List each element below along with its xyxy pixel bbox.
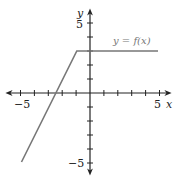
function-graph: y 5 −5 −5 5 x y = f(x) xyxy=(0,0,183,189)
y-max-label: 5 xyxy=(76,18,83,31)
function-label: y = f(x) xyxy=(112,35,151,46)
x-min-label: −5 xyxy=(14,98,30,111)
x-axis-label: x xyxy=(166,98,173,111)
x-max-label: 5 xyxy=(154,98,161,111)
y-min-label: −5 xyxy=(68,157,84,170)
